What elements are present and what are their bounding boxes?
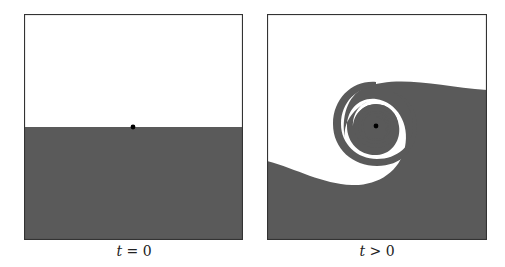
point-vortex [131, 125, 136, 130]
panel-initial [24, 14, 243, 240]
flat-interface-diagram [24, 14, 243, 240]
panel-evolved [267, 14, 487, 240]
caption-evolved: t > 0 [317, 243, 437, 259]
point-vortex [374, 124, 379, 129]
dark-fluid-region [24, 127, 243, 240]
caption-initial: t = 0 [74, 243, 194, 259]
spiral-interface-diagram [267, 14, 487, 240]
